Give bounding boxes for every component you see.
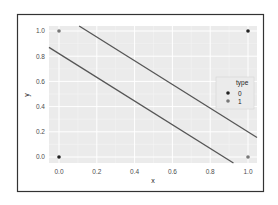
x-tick-label: 1.0 [243, 168, 252, 175]
y-tick-label: 0.2 [36, 128, 45, 135]
point-type-1 [246, 155, 250, 159]
y-tick-label: 1.0 [36, 27, 45, 34]
legend-key-0 [226, 91, 230, 95]
y-axis-title: y [23, 93, 31, 97]
y-tick-label: 0.8 [36, 53, 45, 60]
legend-key-1 [226, 99, 230, 103]
x-tick-label: 0.8 [206, 168, 215, 175]
point-type-0 [57, 155, 61, 159]
legend-label-0: 0 [238, 90, 242, 97]
legend-label-1: 1 [238, 98, 242, 105]
point-type-0 [246, 29, 250, 33]
x-tick-label: 0.4 [130, 168, 139, 175]
y-tick-label: 0.4 [36, 103, 45, 110]
point-type-1 [57, 29, 61, 33]
legend-title: type [236, 79, 249, 87]
x-axis-title: x [151, 177, 155, 184]
x-tick-label: 0.6 [168, 168, 177, 175]
y-tick-label: 0.6 [36, 78, 45, 85]
chart: 0.00.20.40.60.81.0 0.00.20.40.60.81.0 x … [0, 0, 278, 205]
legend: type 0 1 [216, 77, 254, 109]
x-tick-label: 0.0 [54, 168, 63, 175]
legend-box [216, 77, 254, 109]
x-tick-label: 0.2 [92, 168, 101, 175]
y-tick-label: 0.0 [36, 153, 45, 160]
